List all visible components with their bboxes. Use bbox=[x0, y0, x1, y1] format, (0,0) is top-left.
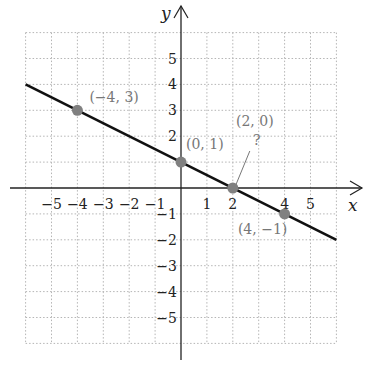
x-tick-label: 5 bbox=[306, 196, 315, 212]
x-axis-label: x bbox=[348, 195, 358, 215]
y-tick-label: 4 bbox=[168, 76, 177, 92]
point-label: (2, 0) bbox=[236, 113, 274, 129]
x-tick-label: −3 bbox=[93, 196, 114, 212]
y-tick-label: 3 bbox=[168, 102, 177, 118]
data-point bbox=[72, 105, 83, 116]
y-tick-label: 2 bbox=[168, 128, 177, 144]
x-tick-label: −5 bbox=[41, 196, 62, 212]
y-tick-label: 5 bbox=[168, 51, 177, 67]
y-tick-label: −1 bbox=[156, 206, 177, 222]
data-point bbox=[227, 183, 238, 194]
point-label: (4, −1) bbox=[238, 221, 287, 237]
point-note: ? bbox=[253, 132, 261, 148]
y-tick-label: −5 bbox=[156, 310, 177, 326]
y-tick-label: −3 bbox=[156, 258, 177, 274]
graph: x y −5−4−3−2−112455432−1−2−3−4−5 (−4, 3)… bbox=[0, 0, 378, 373]
point-label: (0, 1) bbox=[186, 136, 224, 152]
y-tick-label: −4 bbox=[156, 284, 177, 300]
x-tick-label: 1 bbox=[202, 196, 211, 212]
x-tick-label: −4 bbox=[67, 196, 88, 212]
x-tick-label: 2 bbox=[228, 196, 237, 212]
x-tick-label: −2 bbox=[119, 196, 140, 212]
y-tick-label: −2 bbox=[156, 232, 177, 248]
data-point bbox=[279, 208, 290, 219]
leader-line bbox=[236, 151, 250, 185]
data-point bbox=[176, 157, 187, 168]
point-label: (−4, 3) bbox=[89, 89, 138, 105]
y-axis-label: y bbox=[160, 3, 171, 23]
